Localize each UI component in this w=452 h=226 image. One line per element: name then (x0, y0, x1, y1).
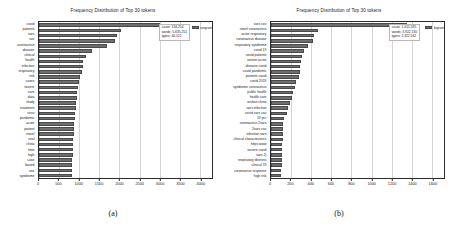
x-tick-label: 400 (308, 179, 314, 186)
bar-row (271, 173, 444, 178)
bar (39, 23, 160, 27)
bar (271, 174, 281, 178)
bar (271, 60, 301, 64)
x-tick-label: 500 (55, 179, 61, 186)
legend-b: bigram (425, 26, 444, 30)
tick-mark (160, 179, 161, 181)
stat-types-b: types: 2,322,562 (392, 35, 417, 39)
bar (39, 106, 76, 110)
x-tick-label: 2500 (136, 179, 144, 186)
legend-swatch-icon-a (192, 26, 199, 29)
bar (271, 80, 296, 84)
bar (271, 70, 300, 74)
tick-mark (290, 179, 291, 181)
tick-mark (270, 179, 271, 181)
panel-b: Frequency Distribution of Top 30 tokens … (226, 0, 452, 226)
plot-area-b (270, 21, 445, 179)
bar (271, 117, 284, 121)
legend-label-a: unigram (200, 26, 212, 30)
legend-swatch-icon-b (425, 26, 432, 29)
bar-series-b (271, 22, 444, 178)
bar (271, 34, 314, 38)
x-tick-label: 4000 (197, 179, 205, 186)
bar-row (39, 173, 212, 178)
caption-a: (a) (0, 209, 226, 218)
x-axis-ticks-a: 05001000150020002500300035004000 (38, 179, 213, 193)
bar (271, 106, 288, 110)
bar (271, 169, 281, 173)
bar (39, 65, 83, 69)
x-tick-label: 800 (348, 179, 354, 186)
x-axis-ticks-b: 02004006008001000120014001600 (270, 179, 445, 193)
bar (271, 143, 282, 147)
x-tick-label: 0 (37, 179, 39, 186)
bar (271, 49, 304, 53)
bar (39, 143, 73, 147)
bar (39, 138, 73, 142)
bar (271, 75, 299, 79)
bar (39, 39, 115, 43)
bar (271, 138, 283, 142)
x-tick-label: 3000 (156, 179, 164, 186)
x-tick-label: 2000 (115, 179, 123, 186)
tick-mark (392, 179, 393, 181)
caption-b: (b) (226, 209, 452, 218)
bar (39, 96, 77, 100)
bar (39, 34, 117, 38)
stat-types-a: types: 40,121 (162, 35, 187, 39)
bar (39, 101, 76, 105)
x-tick-label: 0 (269, 179, 271, 186)
bar (271, 132, 283, 136)
bar (39, 29, 121, 33)
bar (39, 163, 72, 167)
bar (271, 112, 287, 116)
bar (39, 122, 74, 126)
chart-title-b: Frequency Distribution of Top 30 tokens (226, 8, 452, 13)
y-tick-label: high risk (226, 174, 268, 179)
bar (39, 75, 80, 79)
bar (271, 86, 295, 90)
bar (271, 55, 302, 59)
x-tick-label: 1000 (368, 179, 376, 186)
bar (39, 112, 75, 116)
x-tick-label: 1600 (429, 179, 437, 186)
bar (39, 80, 79, 84)
bar (271, 101, 290, 105)
tick-mark (310, 179, 311, 181)
legend-label-b: bigram (434, 26, 444, 30)
tick-mark (38, 179, 39, 181)
plot-area-a (38, 21, 213, 179)
bar (39, 153, 73, 157)
x-tick-label: 200 (287, 179, 293, 186)
y-axis-labels-a: covidpatientssarscovcoronavirusdiseasecl… (0, 21, 36, 179)
bar (39, 44, 107, 48)
tick-mark (139, 179, 140, 181)
stats-box-b: count: 1,051,595 words: 3,922,130 types:… (389, 24, 420, 41)
bar (39, 117, 75, 121)
x-tick-label: 1500 (95, 179, 103, 186)
bar (39, 174, 72, 178)
bar (39, 158, 72, 162)
bar (271, 44, 308, 48)
tick-mark (119, 179, 120, 181)
x-tick-label: 600 (328, 179, 334, 186)
x-tick-label: 1400 (408, 179, 416, 186)
bar (39, 70, 82, 74)
bar (39, 49, 92, 53)
bar (39, 86, 78, 90)
bar-series-a (39, 22, 212, 178)
tick-mark (180, 179, 181, 181)
y-tick-label: syndrome (0, 174, 36, 179)
tick-mark (200, 179, 201, 181)
bar (39, 169, 72, 173)
bar (271, 65, 300, 69)
bar (271, 122, 283, 126)
bar (271, 91, 293, 95)
bar (271, 39, 313, 43)
bar (39, 91, 77, 95)
y-axis-labels-b: sars covnovel coronavirusacute respirato… (226, 21, 268, 179)
bar (271, 96, 292, 100)
bar (39, 148, 73, 152)
bar (271, 127, 283, 131)
stats-box-a: count: 134,250 words: 5,635,251 types: 4… (159, 24, 190, 41)
